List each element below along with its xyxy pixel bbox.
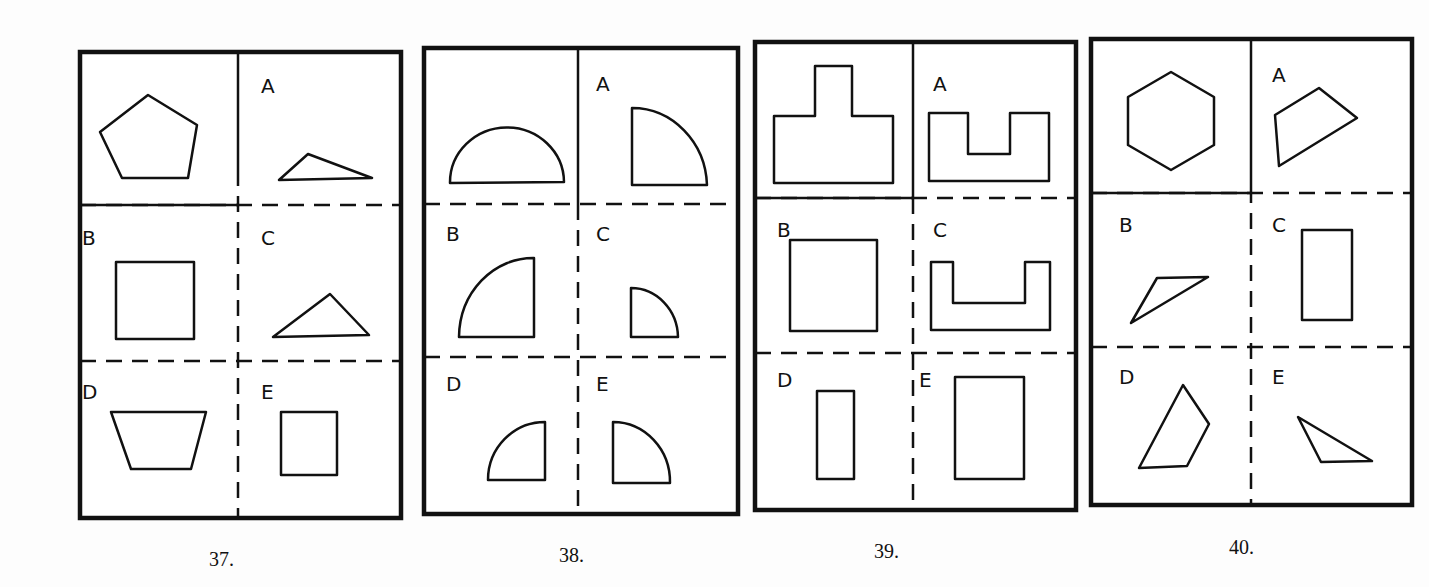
option-label-c: C bbox=[261, 228, 275, 248]
option-label-d: D bbox=[1119, 367, 1134, 387]
problem-38: A B C D E bbox=[422, 46, 740, 516]
option-label-b: B bbox=[446, 224, 460, 244]
problem-39: A B C D E bbox=[753, 40, 1078, 512]
problem-number-38: 38. bbox=[559, 544, 584, 567]
option-label-d: D bbox=[777, 370, 792, 390]
problem-40-figure bbox=[1089, 37, 1414, 507]
problem-40: A B C D E bbox=[1089, 37, 1414, 507]
option-label-c: C bbox=[933, 220, 947, 240]
option-label-a: A bbox=[261, 76, 275, 96]
option-label-e: E bbox=[596, 374, 609, 394]
option-label-e: E bbox=[261, 382, 274, 402]
option-label-c: C bbox=[596, 224, 610, 244]
problem-38-figure bbox=[422, 46, 740, 516]
option-label-b: B bbox=[777, 220, 791, 240]
problem-37: A B C D E bbox=[78, 50, 403, 520]
option-label-b: B bbox=[1119, 215, 1133, 235]
option-label-b: B bbox=[82, 228, 96, 248]
option-label-a: A bbox=[933, 74, 947, 94]
option-label-e: E bbox=[1272, 367, 1285, 387]
problem-number-37: 37. bbox=[209, 548, 234, 571]
problem-number-40: 40. bbox=[1229, 536, 1254, 559]
option-label-d: D bbox=[82, 382, 97, 402]
option-label-a: A bbox=[596, 74, 610, 94]
problem-37-figure bbox=[78, 50, 403, 520]
problem-39-figure bbox=[753, 40, 1078, 512]
option-label-e: E bbox=[919, 370, 932, 390]
option-label-d: D bbox=[446, 374, 461, 394]
option-label-a: A bbox=[1272, 65, 1286, 85]
problem-number-39: 39. bbox=[874, 540, 899, 563]
option-label-c: C bbox=[1272, 215, 1286, 235]
